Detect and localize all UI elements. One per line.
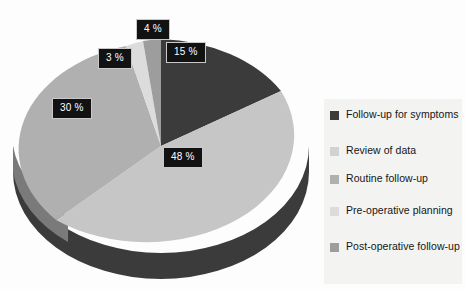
legend-swatch-icon xyxy=(330,243,339,252)
legend-item-pre-operative-planning[interactable]: Pre-operative planning xyxy=(330,204,460,217)
data-label-review-of-data: 48 % xyxy=(163,147,203,168)
legend-item-label: Pre-operative planning xyxy=(346,204,453,217)
legend-item-label: Post-operative follow-up xyxy=(346,240,460,253)
legend-item-label: Review of data xyxy=(346,144,416,157)
legend-item-label: Follow-up for symptoms xyxy=(346,108,459,121)
legend-swatch-icon xyxy=(330,207,339,216)
legend-swatch-icon xyxy=(330,147,339,156)
legend-swatch-icon xyxy=(330,111,339,120)
pie-chart-figure: 15 % 48 % 30 % 3 % 4 % Follow-up for sym… xyxy=(0,0,466,289)
data-label-routine-follow-up: 30 % xyxy=(52,98,92,119)
legend-item-post-operative-follow-up[interactable]: Post-operative follow-up xyxy=(330,240,460,253)
data-label-pre-operative-planning: 3 % xyxy=(98,48,132,69)
pie-chart-svg xyxy=(8,6,314,282)
data-label-post-operative-follow-up: 4 % xyxy=(136,19,170,40)
legend-item-review-of-data[interactable]: Review of data xyxy=(330,144,460,157)
pie-chart-plot-area: 15 % 48 % 30 % 3 % 4 % xyxy=(8,6,314,282)
pie-top-face xyxy=(19,39,295,242)
legend-item-label: Routine follow-up xyxy=(346,172,428,185)
data-label-follow-up-for-symptoms: 15 % xyxy=(166,42,206,63)
legend-item-follow-up-for-symptoms[interactable]: Follow-up for symptoms xyxy=(330,108,460,121)
chart-legend: Follow-up for symptoms Review of data Ro… xyxy=(324,99,462,284)
legend-swatch-icon xyxy=(330,175,339,184)
legend-item-routine-follow-up[interactable]: Routine follow-up xyxy=(330,172,460,185)
